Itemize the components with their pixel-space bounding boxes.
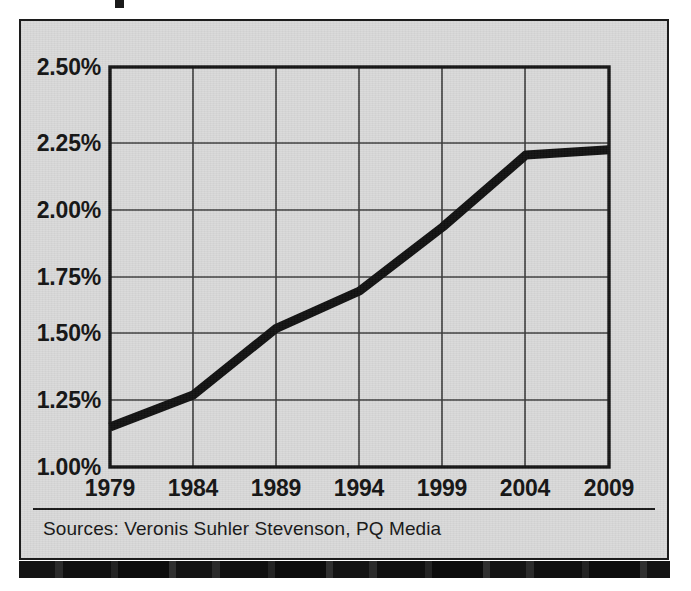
source-divider	[33, 508, 655, 510]
xtick-label-1994: 1994	[317, 475, 401, 502]
xtick-label-1999: 1999	[400, 475, 484, 502]
ytick-label-2-50: 2.50%	[21, 54, 101, 81]
scan-artifact-band	[19, 561, 670, 578]
xtick-label-1979: 1979	[68, 475, 152, 502]
xtick-label-1984: 1984	[151, 475, 235, 502]
xtick-label-1989: 1989	[234, 475, 318, 502]
ytick-label-1-25: 1.25%	[21, 387, 101, 414]
ytick-label-1-75: 1.75%	[21, 264, 101, 291]
gridlines	[110, 67, 609, 467]
xtick-label-2009: 2009	[567, 475, 651, 502]
figure-container: 2.50% 2.25% 2.00% 1.75% 1.50% 1.25% 1.00…	[0, 0, 691, 591]
cropped-title-fragment	[115, 0, 124, 8]
ytick-label-2-00: 2.00%	[21, 197, 101, 224]
xtick-label-2004: 2004	[483, 475, 567, 502]
ytick-label-1-50: 1.50%	[21, 320, 101, 347]
chart-panel: 2.50% 2.25% 2.00% 1.75% 1.50% 1.25% 1.00…	[19, 19, 669, 560]
source-note: Sources: Veronis Suhler Stevenson, PQ Me…	[43, 518, 441, 540]
ytick-label-2-25: 2.25%	[21, 130, 101, 157]
